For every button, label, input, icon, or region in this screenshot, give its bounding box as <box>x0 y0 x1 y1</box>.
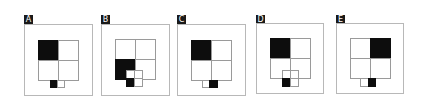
grid-cell-bottom-left <box>350 58 371 79</box>
small-square-right <box>368 78 376 87</box>
small-quad-bottom-right <box>134 78 143 87</box>
grid-cell-top-right <box>211 40 232 61</box>
grid-cell-bottom-left <box>191 60 212 81</box>
grid-cell-top-right <box>135 39 156 60</box>
option-a[interactable]: A <box>24 15 93 96</box>
grid-cell-bottom-right <box>211 60 232 81</box>
grid-cell-top-left <box>270 38 291 59</box>
grid-cell-top-right <box>370 38 391 59</box>
grid-cell-bottom-left <box>38 60 59 81</box>
small-square-right <box>209 80 218 88</box>
grid-cell-top-right <box>290 38 311 59</box>
grid-cell-top-left <box>115 39 136 60</box>
grid-cell-bottom-right <box>58 60 79 81</box>
option-e[interactable]: E <box>336 15 404 95</box>
option-d[interactable]: D <box>256 15 324 95</box>
option-b[interactable]: B <box>101 15 170 96</box>
grid-cell-top-right <box>58 40 79 61</box>
small-quad-bottom-right <box>290 78 299 87</box>
grid-cell-bottom-right <box>370 58 391 79</box>
option-label: C <box>177 15 186 24</box>
option-label: A <box>24 15 33 24</box>
option-label: B <box>101 15 110 24</box>
small-square-right <box>57 80 65 88</box>
option-c[interactable]: C <box>177 15 246 96</box>
grid-cell-top-left <box>191 40 212 61</box>
grid-cell-top-left <box>350 38 371 59</box>
grid-cell-top-left <box>38 40 59 61</box>
